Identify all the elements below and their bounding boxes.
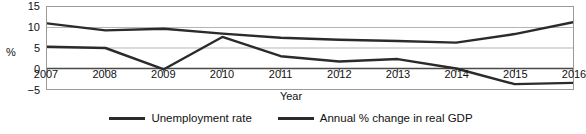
series-line-0 (47, 22, 573, 43)
y-tick-label: 10 (16, 22, 40, 33)
x-tick-label: 2009 (151, 69, 175, 80)
y-axis-title: % (6, 46, 16, 58)
legend-label: Annual % change in real GDP (320, 112, 473, 124)
legend-line-swatch (278, 117, 314, 120)
x-tick-label: 2008 (92, 69, 116, 80)
gridlines (47, 28, 573, 69)
x-tick-label: 2007 (34, 69, 58, 80)
x-tick-label: 2013 (386, 69, 410, 80)
x-tick-label: 2011 (269, 69, 293, 80)
x-tick-label: 2010 (210, 69, 234, 80)
legend-item[interactable]: Annual % change in real GDP (278, 112, 473, 124)
chart-legend: Unemployment rateAnnual % change in real… (0, 112, 582, 124)
x-axis-tick-labels: 2007200820092010201120122013201420152016 (46, 69, 574, 85)
x-tick-label: 2014 (444, 69, 468, 80)
y-tick-label: 5 (16, 43, 40, 54)
x-tick-label: 2012 (327, 69, 351, 80)
x-tick-label: 2015 (503, 69, 527, 80)
x-axis-title: Year (0, 90, 582, 102)
legend-line-swatch (109, 117, 145, 120)
legend-item[interactable]: Unemployment rate (109, 112, 251, 124)
legend-label: Unemployment rate (151, 112, 251, 124)
x-tick-label: 2016 (562, 69, 586, 80)
y-tick-label: 15 (16, 1, 40, 12)
